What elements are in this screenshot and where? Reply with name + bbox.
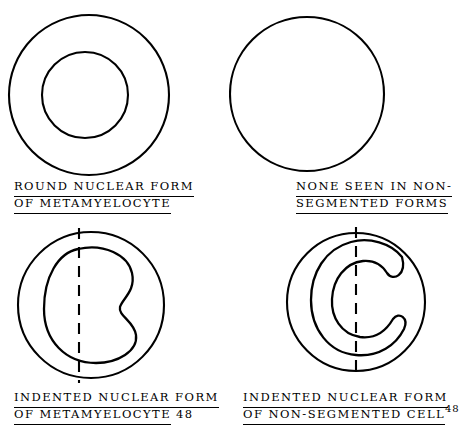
- none-seen-diagram: [229, 0, 458, 180]
- caption-row: OF METAMYELOCYTE48: [14, 406, 219, 423]
- caption-line-2: OF METAMYELOCYTE: [14, 406, 171, 425]
- panel-caption: ROUND NUCLEAR FORM OF METAMYELOCYTE: [14, 178, 194, 212]
- panel-caption: INDENTED NUCLEAR FORM OF NON-SEGMENTED C…: [243, 389, 448, 423]
- reference-number: 48: [171, 406, 194, 423]
- caption-row: SEGMENTED FORMS: [296, 195, 452, 212]
- caption-row: ROUND NUCLEAR FORM: [14, 178, 194, 195]
- cell-membrane-outline: [9, 15, 169, 175]
- round-nucleus-outline: [42, 52, 128, 138]
- caption-row: NONE SEEN IN NON-: [296, 178, 452, 195]
- kidney-bean-nucleus-outline: [44, 247, 136, 363]
- panel-indented-nuclear-form-non-segmented-cell: INDENTED NUCLEAR FORM OF NON-SEGMENTED C…: [229, 211, 458, 422]
- indented-nuclear-form-band-diagram: [229, 211, 458, 391]
- cell-membrane-outline: [18, 232, 164, 378]
- c-shaped-band-nucleus-outline: [311, 240, 405, 355]
- caption-row: OF NON-SEGMENTED CELL 48: [243, 406, 448, 423]
- cell-membrane-outline: [230, 17, 384, 171]
- panel-caption: INDENTED NUCLEAR FORM OF METAMYELOCYTE48: [14, 389, 219, 423]
- caption-row: INDENTED NUCLEAR FORM: [14, 389, 219, 406]
- reference-number: 48: [445, 400, 459, 417]
- panel-none-seen-non-segmented-forms: NONE SEEN IN NON- SEGMENTED FORMS: [229, 0, 458, 211]
- caption-line-2: OF NON-SEGMENTED CELL: [243, 406, 445, 425]
- caption-row: INDENTED NUCLEAR FORM: [243, 389, 448, 406]
- indented-nuclear-form-diagram: [0, 211, 229, 391]
- caption-line-2-holder: OF NON-SEGMENTED CELL 48: [243, 406, 445, 425]
- caption-row: OF METAMYELOCYTE: [14, 195, 194, 212]
- panel-indented-nuclear-form-metamyelocyte: INDENTED NUCLEAR FORM OF METAMYELOCYTE48: [0, 211, 229, 422]
- round-nuclear-form-diagram: [0, 0, 229, 180]
- panel-round-nuclear-form-metamyelocyte: ROUND NUCLEAR FORM OF METAMYELOCYTE: [0, 0, 229, 211]
- panel-caption: NONE SEEN IN NON- SEGMENTED FORMS: [296, 178, 452, 212]
